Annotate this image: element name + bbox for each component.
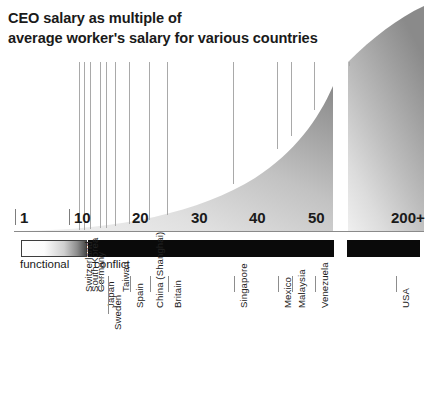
x-axis-label: 40: [249, 209, 266, 226]
x-axis-line: [14, 231, 424, 232]
x-axis-label: 50: [308, 209, 325, 226]
country-label: Singapore: [238, 263, 249, 308]
country-label: Britain: [172, 280, 183, 308]
country-label: USA: [400, 288, 411, 308]
leader-line: [100, 62, 101, 228]
x-axis-label: 30: [191, 209, 208, 226]
country-tick: [278, 276, 279, 292]
x-axis-label: 20: [132, 209, 149, 226]
leader-line: [106, 62, 107, 228]
x-axis-label: 200+: [391, 209, 425, 226]
legend-bar-conflict-right: [347, 240, 420, 257]
leader-line: [233, 62, 234, 184]
country-tick: [150, 276, 151, 292]
x-axis-tick: [69, 209, 70, 225]
leader-line: [115, 62, 116, 226]
leader-line: [291, 62, 292, 136]
leader-line: [314, 62, 315, 110]
x-axis-label: 1: [20, 209, 28, 226]
leader-line: [90, 62, 91, 229]
country-label: Spain: [134, 283, 145, 308]
country-tick: [168, 276, 169, 292]
leader-line: [167, 62, 168, 215]
x-axis-tick: [15, 209, 16, 225]
leader-line: [84, 62, 85, 230]
country-label: Sweden: [112, 295, 123, 330]
country-tick: [234, 276, 235, 292]
country-tick: [130, 276, 131, 292]
leader-line: [277, 62, 278, 149]
curve-shape-container: [0, 0, 434, 232]
legend-bar-conflict-left: [88, 240, 334, 257]
x-axis-label: 10: [74, 209, 91, 226]
infographic-root: CEO salary as multiple of average worker…: [0, 0, 434, 410]
leader-line: [149, 62, 150, 220]
country-label: China (Shanghai): [154, 232, 165, 308]
leader-line: [129, 62, 130, 224]
country-label: Malaysia: [296, 269, 307, 308]
leader-line: [349, 62, 350, 66]
usa-curve-area: [348, 6, 424, 231]
country-tick: [108, 276, 109, 314]
legend-label-functional: functional: [20, 258, 69, 270]
country-tick: [315, 276, 316, 292]
chart-plot-area: [0, 0, 434, 232]
country-label: Venezuela: [319, 262, 330, 308]
country-tick: [292, 276, 293, 292]
area-curve-svg: [0, 0, 434, 232]
country-tick: [101, 276, 102, 292]
main-curve-area: [20, 86, 333, 231]
country-tick: [396, 276, 397, 292]
legend-bar-functional: [21, 240, 87, 257]
leader-line: [79, 62, 80, 230]
